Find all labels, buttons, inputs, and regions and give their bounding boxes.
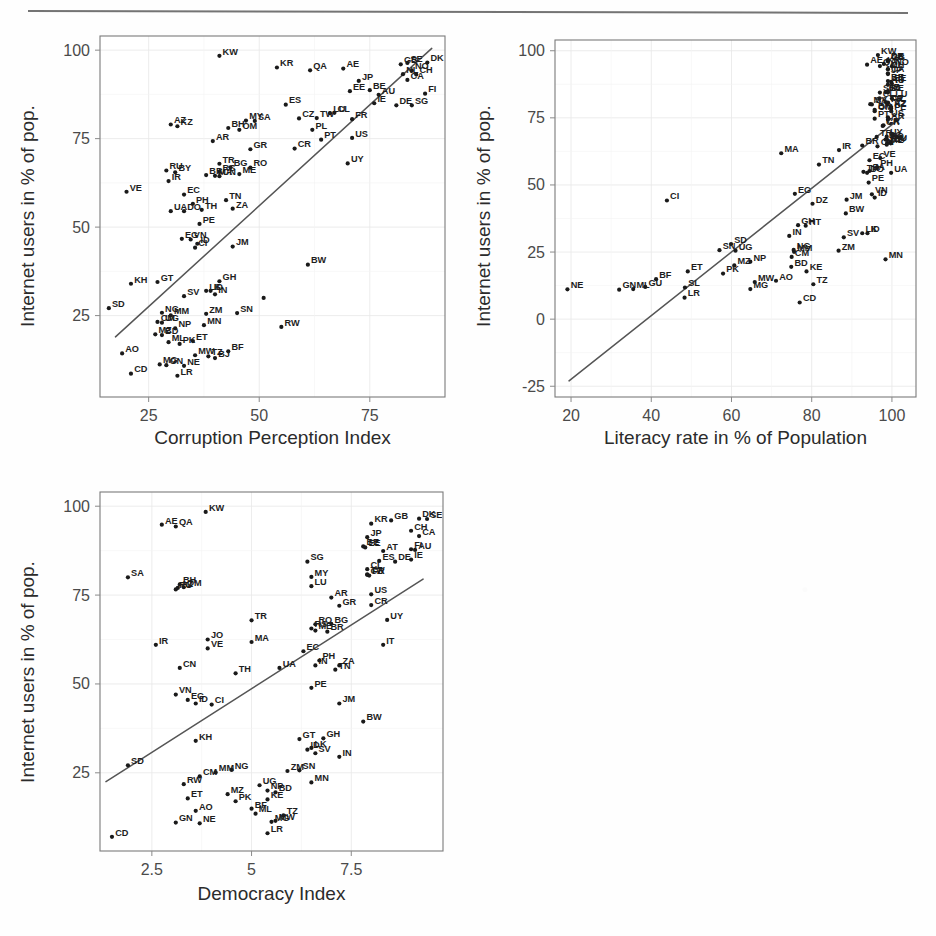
data-point-label: SN bbox=[303, 761, 316, 771]
data-point-label: VE bbox=[130, 183, 142, 193]
data-point-label: NP bbox=[178, 319, 191, 329]
data-point-label: MN bbox=[889, 250, 904, 260]
data-point bbox=[301, 649, 305, 653]
data-point bbox=[423, 92, 427, 96]
y-axis-tick-label: 25 bbox=[72, 307, 90, 324]
data-point-label: LR bbox=[271, 824, 284, 834]
data-point bbox=[389, 518, 393, 522]
data-point-label: UY bbox=[390, 611, 403, 621]
data-point-label: PE bbox=[315, 679, 327, 689]
data-point-label: UG bbox=[165, 313, 179, 323]
data-point bbox=[197, 222, 201, 226]
data-point bbox=[182, 585, 186, 589]
data-point bbox=[385, 618, 389, 622]
data-point bbox=[175, 374, 179, 378]
data-point-label: IN bbox=[792, 227, 801, 237]
data-point bbox=[310, 128, 314, 132]
data-point-label: OM bbox=[243, 121, 258, 131]
data-point bbox=[176, 586, 180, 590]
data-point-label: MN bbox=[207, 316, 222, 326]
scatter-plot-democracy: KWAEQAKRGBDKSECHCAJPBEEEATAUFIESDEIESGMY… bbox=[0, 476, 470, 936]
data-point bbox=[860, 143, 864, 147]
data-point-label: BY bbox=[894, 134, 907, 144]
data-point bbox=[306, 263, 310, 267]
data-point bbox=[226, 792, 230, 796]
data-point-label: GR bbox=[254, 140, 268, 150]
data-point-label: PT bbox=[324, 130, 336, 140]
data-point-label: RW bbox=[187, 775, 202, 785]
data-point-label: DE bbox=[398, 552, 411, 562]
data-point-label: GT bbox=[161, 273, 174, 283]
data-point-label: BD bbox=[794, 258, 808, 268]
data-point-label: SV bbox=[847, 228, 860, 238]
data-point bbox=[204, 510, 208, 514]
data-point bbox=[886, 72, 890, 76]
y-axis-tick-label: 100 bbox=[518, 42, 545, 59]
data-point bbox=[213, 174, 217, 178]
data-point bbox=[124, 190, 128, 194]
data-point bbox=[248, 147, 252, 151]
data-point-label: ID bbox=[871, 224, 880, 234]
data-point bbox=[166, 179, 170, 183]
data-point-label: BR bbox=[331, 622, 345, 632]
data-point-label: NG bbox=[235, 761, 249, 771]
data-point-label: PE bbox=[203, 215, 215, 225]
data-point-label: AR bbox=[216, 132, 230, 142]
data-point-label: SG bbox=[311, 552, 324, 562]
data-point-label: IN bbox=[218, 285, 227, 295]
data-point bbox=[262, 296, 266, 300]
x-axis-tick-label: 75 bbox=[361, 407, 379, 424]
data-point bbox=[369, 603, 373, 607]
data-point-label: AO bbox=[779, 272, 793, 282]
data-point-label: CI bbox=[198, 238, 207, 248]
data-point-label: CD bbox=[803, 293, 817, 303]
data-point bbox=[174, 524, 178, 528]
data-point-label: SV bbox=[319, 744, 332, 754]
data-point bbox=[341, 66, 345, 70]
data-point-label: ME bbox=[243, 165, 257, 175]
data-point-label: SG bbox=[415, 96, 428, 106]
data-point bbox=[120, 351, 124, 355]
data-point bbox=[804, 269, 808, 273]
data-point-label: NP bbox=[754, 253, 767, 263]
data-point-label: RW bbox=[285, 318, 300, 328]
data-point bbox=[748, 260, 752, 264]
data-point bbox=[790, 255, 794, 259]
data-point bbox=[186, 796, 190, 800]
data-point bbox=[198, 821, 202, 825]
data-point bbox=[129, 372, 133, 376]
y-axis-tick-label: 0 bbox=[536, 311, 545, 328]
data-point bbox=[284, 103, 288, 107]
data-point-label: AE bbox=[165, 516, 178, 526]
data-point-label: GH bbox=[223, 272, 237, 282]
y-axis-tick-label: 75 bbox=[72, 587, 90, 604]
data-point-label: NE bbox=[203, 814, 216, 824]
data-point-label: MN bbox=[315, 773, 330, 783]
scatter-plot-cpi: KWKRQAAESEGBDKNOCHNLCAJPEEBEAUFIIEDESGES… bbox=[0, 20, 470, 460]
y-axis-tick-label: 25 bbox=[527, 244, 545, 261]
data-point-label: CA bbox=[422, 527, 436, 537]
data-point-label: SV bbox=[187, 287, 200, 297]
data-point bbox=[309, 626, 313, 630]
data-point-label: SN bbox=[240, 304, 253, 314]
data-point bbox=[873, 195, 877, 199]
data-point-label: HT bbox=[809, 217, 822, 227]
data-point bbox=[178, 666, 182, 670]
data-point bbox=[333, 668, 337, 672]
data-point bbox=[875, 144, 879, 148]
data-point-label: IN bbox=[319, 656, 328, 666]
data-point bbox=[804, 224, 808, 228]
data-point bbox=[565, 287, 569, 291]
data-point bbox=[405, 78, 409, 82]
data-point-label: UA bbox=[283, 659, 297, 669]
data-point-label: BF bbox=[231, 342, 244, 352]
data-point bbox=[865, 231, 869, 235]
data-point bbox=[369, 592, 373, 596]
x-axis-tick-label: 7.5 bbox=[340, 861, 362, 878]
data-point-label: FI bbox=[428, 84, 436, 94]
data-point bbox=[878, 64, 882, 68]
data-point bbox=[153, 332, 157, 336]
data-point-label: ML bbox=[259, 804, 273, 814]
data-point bbox=[158, 362, 162, 366]
data-point-label: MA bbox=[255, 633, 270, 643]
